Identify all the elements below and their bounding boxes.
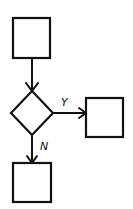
- no-process-box: [13, 163, 51, 202]
- no-label: N: [40, 140, 48, 153]
- yes-label: Y: [61, 96, 69, 109]
- yes-process-box: [86, 98, 123, 137]
- flowchart-canvas: Y N: [0, 0, 133, 209]
- top-process-box: [13, 18, 50, 58]
- decision-diamond: [11, 91, 53, 135]
